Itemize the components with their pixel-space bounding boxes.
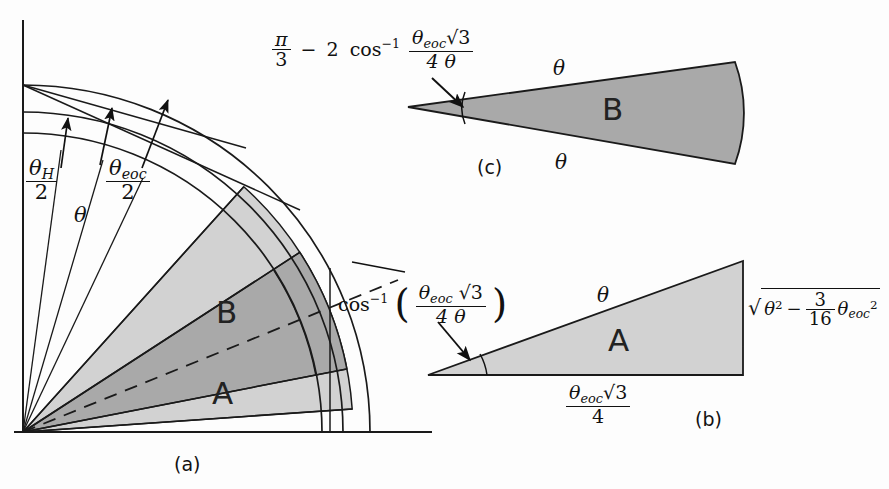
panel-c-graphic xyxy=(408,62,744,164)
hypotenuse-label-panel-b: θ xyxy=(597,285,609,305)
arccos-fn-a: cos xyxy=(338,295,370,314)
arrow-to-arc-inner xyxy=(61,118,68,168)
arccos-num-radical-a: √3 xyxy=(459,281,483,303)
height-theta-b: θ xyxy=(764,298,775,319)
height-theta2-sub-b: eoc xyxy=(848,307,869,321)
edge-label-top-panel-c: θ xyxy=(553,58,565,78)
arccos-open-paren-a: ( xyxy=(394,285,409,324)
arccos-exp-c: −1 xyxy=(382,36,400,51)
height-label-panel-b: √θ2−316θeoc2 xyxy=(748,288,880,328)
label-theta-eoc-half: θeoc 2 xyxy=(106,158,150,203)
base-num-radical-b: √3 xyxy=(603,381,627,403)
caption-panel-a: (a) xyxy=(174,455,200,474)
label-apex-formula-panel-c: π 3 − 2 cos−1 θeoc√3 4 θ xyxy=(272,28,473,71)
base-label-panel-b: θeoc√3 4 xyxy=(566,383,630,426)
arccos-num-radical-c: √3 xyxy=(446,26,470,48)
base-den-b: 4 xyxy=(566,407,630,426)
caption-panel-c: (c) xyxy=(477,158,502,177)
label-arccos-panel-a: cos−1 ( θeoc √3 4 θ ) xyxy=(338,283,507,326)
theta-eoc-denominator: 2 xyxy=(106,182,150,203)
sqrt-symbol-b: √ xyxy=(748,298,761,319)
region-label-b-panel-a: B xyxy=(216,297,237,328)
caption-panel-b: (b) xyxy=(695,410,722,429)
height-theta2-b: θ xyxy=(835,298,849,319)
pi-denominator-c: 3 xyxy=(272,50,291,69)
base-num-theta-b: θ xyxy=(569,381,580,403)
height-frac-den-b: 16 xyxy=(806,310,835,328)
arccos-num-theta-a: θ xyxy=(419,281,430,303)
arccos-num-sub-a: eoc xyxy=(430,291,453,306)
arccos-close-paren-a: ) xyxy=(492,285,507,324)
arccos-fn-c: cos xyxy=(345,40,382,59)
height-theta-exp-b: 2 xyxy=(775,298,783,312)
minus-sign-c: − xyxy=(297,40,321,59)
coefficient-c: 2 xyxy=(327,40,339,59)
region-label-a-panel-a: A xyxy=(212,378,233,409)
theta-eoc-numerator: θ xyxy=(109,156,122,180)
arccos-den-c: 4 θ xyxy=(409,52,473,71)
apex-leader-arrow-b xyxy=(438,322,470,360)
arccos-num-sub-c: eoc xyxy=(423,36,446,51)
wedge-region-b-c xyxy=(408,62,744,164)
theta-h-denominator: 2 xyxy=(26,182,57,203)
label-theta-h-half: θH 2 xyxy=(26,158,57,203)
height-theta2-exp-b: 2 xyxy=(870,298,878,312)
pi-numerator-c: π xyxy=(272,30,291,50)
chord-line-2 xyxy=(23,85,246,148)
arccos-leader-line xyxy=(352,262,405,272)
edge-label-bottom-panel-c: θ xyxy=(555,152,567,172)
region-label-a-panel-b: A xyxy=(608,325,629,356)
theta-h-numerator: θ xyxy=(29,156,42,180)
figure-canvas xyxy=(0,0,889,489)
arccos-den-a: 4 θ xyxy=(416,307,486,326)
arccos-num-theta-c: θ xyxy=(412,26,423,48)
region-label-b-panel-c: B xyxy=(602,94,623,125)
figure-root: θH 2 θ θeoc 2 B A (a) cos−1 ( θeoc √3 4 … xyxy=(0,0,889,489)
height-minus-b: − xyxy=(783,298,806,319)
arccos-exp-a: −1 xyxy=(370,291,388,306)
base-num-sub-b: eoc xyxy=(580,391,603,406)
label-theta: θ xyxy=(74,205,87,226)
